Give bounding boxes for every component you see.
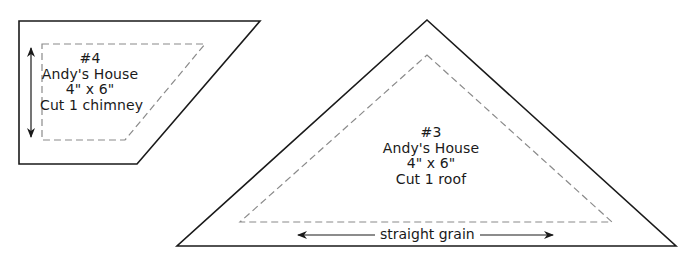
roof-block-size: 4" x 6" <box>381 156 481 172</box>
roof-cut-instruction: Cut 1 roof <box>381 172 481 188</box>
roof-project-name: Andy's House <box>381 141 481 157</box>
chimney-cut-instruction: Cut 1 chimney <box>40 98 140 114</box>
straight-grain-label: straight grain <box>375 226 480 242</box>
roof-piece-number: #3 <box>381 125 481 141</box>
roof-label: #3 Andy's House 4" x 6" Cut 1 roof <box>381 125 481 187</box>
chimney-label: #4 Andy's House 4" x 6" Cut 1 chimney <box>40 51 140 113</box>
chimney-project-name: Andy's House <box>40 67 140 83</box>
chimney-piece-number: #4 <box>40 51 140 67</box>
pattern-canvas <box>0 0 696 280</box>
chimney-block-size: 4" x 6" <box>40 82 140 98</box>
